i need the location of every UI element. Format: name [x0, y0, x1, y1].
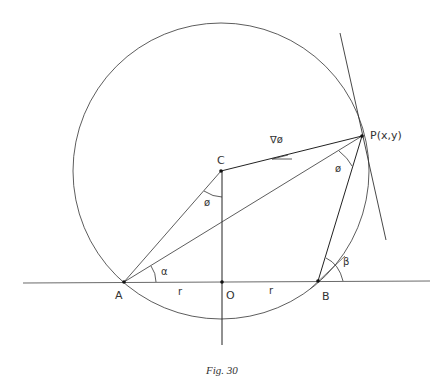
label-beta: β — [343, 256, 349, 267]
label-r-left: r — [178, 286, 183, 297]
point-B — [316, 279, 320, 283]
label-B: B — [322, 290, 330, 303]
angle-arc-beta — [326, 258, 343, 281]
figure-30-diagram: A O B C P(x,y) ∇ø ø ø α β r r Fig. 30 — [0, 0, 448, 392]
point-P — [360, 134, 364, 138]
label-A: A — [115, 289, 123, 302]
point-A — [122, 280, 126, 284]
diagram-canvas: A O B C P(x,y) ∇ø ø ø α β r r Fig. 30 — [0, 0, 448, 392]
label-P: P(x,y) — [370, 129, 402, 142]
label-alpha: α — [161, 266, 168, 277]
label-r-right: r — [269, 285, 274, 296]
label-phi-C: ø — [204, 197, 210, 208]
line-AP — [124, 136, 362, 282]
label-gradient-phi: ∇ø — [269, 134, 283, 145]
point-C — [219, 169, 223, 173]
label-phi-P: ø — [335, 163, 341, 174]
angle-arc-alpha — [151, 266, 156, 282]
line-AC — [124, 171, 221, 282]
point-O — [220, 280, 224, 284]
label-O: O — [226, 289, 235, 302]
x-axis-line — [23, 281, 430, 283]
label-C: C — [217, 154, 225, 167]
figure-caption: Fig. 30 — [205, 364, 238, 376]
